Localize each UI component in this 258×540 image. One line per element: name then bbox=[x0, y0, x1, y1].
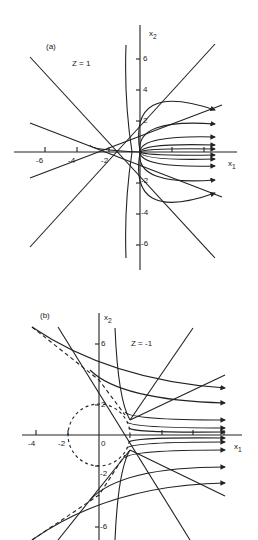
panel-b-xtick: 0 bbox=[101, 440, 105, 448]
panel-a-param: Z = 1 bbox=[72, 60, 90, 68]
panel-a-ytick: 2 bbox=[143, 117, 147, 125]
panel-a-xtick: -6 bbox=[36, 157, 43, 165]
panel-a-ytick: -2 bbox=[141, 177, 148, 185]
panel-b-ytick: 6 bbox=[101, 340, 105, 348]
panel-b-xtick: -4 bbox=[28, 440, 35, 448]
panel-b-x-label: x1 bbox=[234, 443, 242, 453]
panel-a-ytick: 4 bbox=[143, 86, 147, 94]
panel-b-ytick: -2 bbox=[100, 470, 107, 478]
panel-a-graphics bbox=[14, 25, 237, 270]
diagram-lines bbox=[0, 0, 258, 540]
panel-b-label: (b) bbox=[40, 312, 50, 320]
panel-b-param: Z = -1 bbox=[131, 340, 152, 348]
panel-a-ytick: 6 bbox=[143, 55, 147, 63]
panel-a-label: (a) bbox=[46, 43, 56, 51]
panel-b-xtick: -2 bbox=[58, 440, 65, 448]
panel-a-ytick: -6 bbox=[141, 240, 148, 248]
figure: (a) Z = 1 x2 x1 -6 -4 -2 6 4 2 -2 -4 -6 … bbox=[0, 0, 258, 540]
panel-b-y-label: x2 bbox=[104, 314, 112, 324]
panel-a-x-label: x1 bbox=[228, 160, 236, 170]
panel-a-xtick: -2 bbox=[101, 157, 108, 165]
panel-b-ytick: 2 bbox=[101, 401, 105, 409]
panel-b-ytick: -6 bbox=[100, 523, 107, 531]
panel-a-xtick: -4 bbox=[68, 157, 75, 165]
panel-a-ytick: -4 bbox=[141, 209, 148, 217]
panel-a-y-label: x2 bbox=[149, 30, 157, 40]
